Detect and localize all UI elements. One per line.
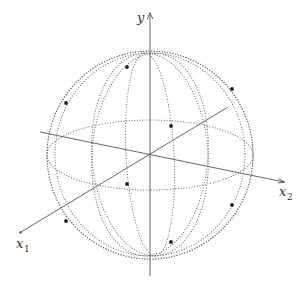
x2-axis	[40, 132, 284, 182]
sphere-point	[64, 219, 68, 223]
sphere-point	[125, 182, 129, 186]
axes	[19, 13, 285, 277]
x1-axis	[21, 107, 228, 232]
sphere-diagram: y x 1 x 2	[0, 0, 306, 292]
y-axis-label: y	[136, 10, 145, 25]
sphere-point	[230, 87, 234, 91]
sphere-point	[64, 101, 68, 105]
x2-axis-label: x	[279, 184, 287, 199]
x2-axis-subscript: 2	[287, 192, 293, 202]
sphere-point	[169, 124, 173, 128]
sphere-point	[230, 203, 234, 207]
x1-axis-subscript: 1	[24, 244, 30, 254]
x1-arrow-icon	[19, 231, 22, 234]
sphere-point	[169, 240, 173, 244]
x1-axis-label: x	[16, 236, 24, 251]
sphere-point	[125, 65, 129, 69]
